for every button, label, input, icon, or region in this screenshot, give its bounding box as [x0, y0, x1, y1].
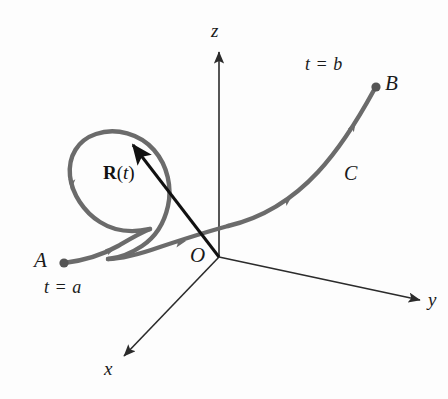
position-vector-label: R(t)	[103, 163, 135, 182]
point-a-dot	[59, 258, 68, 267]
axis-x-line	[124, 257, 219, 356]
curve-label: C	[344, 163, 357, 183]
axis-x-label: x	[104, 359, 112, 378]
vector-curve-figure: z y x O A t = a B t = b C R(t)	[0, 0, 448, 399]
figure-canvas	[0, 0, 448, 399]
origin-label: O	[190, 245, 205, 266]
point-b-label: B	[385, 73, 398, 94]
axis-x	[124, 257, 219, 356]
axis-y-label: y	[428, 290, 436, 309]
point-a-label: A	[34, 250, 47, 271]
position-vector-paren-close: )	[128, 162, 134, 183]
point-b-param-label: t = b	[305, 55, 343, 73]
point-a-param-label: t = a	[44, 278, 82, 296]
curve-segment-loop	[70, 131, 170, 259]
axis-y	[219, 257, 420, 300]
curve-segment-exit	[228, 90, 374, 226]
axis-z-label: z	[211, 21, 218, 40]
position-vector-name: R	[103, 162, 117, 183]
point-b-dot	[371, 82, 380, 91]
axis-y-line	[219, 257, 420, 300]
